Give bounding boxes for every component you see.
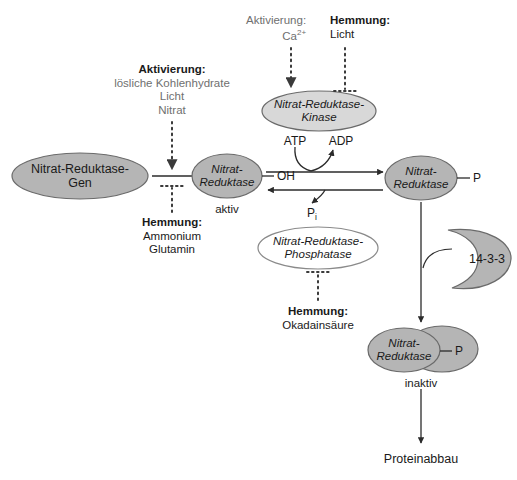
kinase-inhibition-block: Hemmung: Licht: [330, 14, 390, 41]
degradation-label: Proteinabbau: [384, 452, 458, 467]
gene-activation-item-1: Licht: [114, 90, 230, 104]
phosphatase-inhibition-item-0: Okadainsäure: [282, 319, 354, 333]
pathway-diagram: Nitrat-Reduktase- Gen Aktivierung: lösli…: [0, 0, 517, 480]
nr-phospho-ellipse: [385, 156, 457, 200]
protein-14-3-3-connector: [423, 249, 452, 268]
nr-inactive-ellipse: [368, 328, 440, 372]
nr-active-caption: aktiv: [215, 203, 239, 217]
gene-activation-block: Aktivierung: lösliche Kohlenhydrate Lich…: [114, 63, 230, 117]
phosphatase-inhibition-heading: Hemmung:: [282, 305, 354, 319]
gene-inhibition-heading: Hemmung:: [142, 216, 202, 230]
nr-active-ellipse: [192, 154, 262, 198]
gene-activation-heading: Aktivierung:: [114, 63, 230, 77]
atp-curve: [295, 147, 311, 171]
kinase-activation-block: Aktivierung: Ca2+: [246, 14, 306, 43]
gene-activation-item-2: Nitrat: [114, 104, 230, 118]
gene-inhibition-item-0: Ammonium: [142, 230, 202, 244]
kinase-activation-heading: Aktivierung:: [246, 14, 306, 28]
phosphatase-ellipse: [258, 227, 378, 269]
adp-curve: [311, 150, 333, 171]
pi-base: P: [307, 206, 315, 220]
nr-inactive-p-tag: P: [455, 344, 463, 358]
pi-label: Pi: [307, 206, 317, 222]
kinase-ellipse: [262, 91, 376, 131]
gene-inhibition-block: Hemmung: Ammonium Glutamin: [142, 216, 202, 257]
pi-subscript: i: [315, 212, 317, 222]
atp-label: ATP: [284, 134, 306, 148]
protein-14-3-3-shape: [448, 229, 511, 288]
gene-activation-item-0: lösliche Kohlenhydrate: [114, 77, 230, 91]
nr-inactive-caption: inaktiv: [405, 377, 438, 391]
nr-active-oh-tag: OH: [277, 169, 295, 183]
pi-release-curve: [312, 190, 325, 203]
kinase-inhibition-item-0: Licht: [330, 28, 390, 42]
adp-label: ADP: [329, 134, 354, 148]
gene-ellipse: [12, 153, 148, 199]
phosphatase-inhibition-block: Hemmung: Okadainsäure: [282, 305, 354, 332]
nr-phospho-p-tag: P: [473, 171, 481, 185]
diagram-vector-layer: [0, 0, 517, 480]
gene-inhibition-item-1: Glutamin: [142, 243, 202, 257]
kinase-inhibition-heading: Hemmung:: [330, 14, 390, 28]
kinase-activation-item-0: Ca2+: [246, 28, 306, 43]
